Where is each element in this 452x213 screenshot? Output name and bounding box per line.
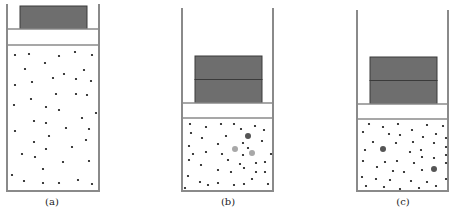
gas-particle	[435, 133, 437, 135]
gas-particle	[14, 130, 16, 132]
gas-particle	[85, 139, 87, 141]
gas-particle	[420, 149, 422, 151]
gas-particle	[34, 156, 36, 158]
gas-particle	[239, 163, 241, 165]
gas-particle	[200, 164, 202, 166]
gas-particle	[410, 180, 412, 182]
gas-particle	[42, 182, 44, 184]
gas-particle	[399, 188, 401, 190]
gas-particle	[189, 123, 191, 125]
gas-particle	[243, 183, 245, 185]
gas-particle	[409, 151, 411, 153]
gas-particle	[233, 184, 235, 186]
gas-particle	[445, 137, 447, 139]
gas-particle	[33, 141, 35, 143]
gas-particle	[240, 128, 242, 130]
gas-particle	[392, 170, 394, 172]
gas-particle	[217, 143, 219, 145]
gas-particle	[247, 147, 249, 149]
piston-diagram-canvas	[0, 0, 452, 213]
gas-particle	[255, 171, 257, 173]
panel-label-c: (c)	[396, 196, 409, 207]
gas-particle	[201, 137, 203, 139]
gas-particle	[11, 174, 13, 176]
gas-particle	[63, 73, 65, 75]
gas-particle	[187, 175, 189, 177]
gas-particle	[233, 123, 235, 125]
gas-particle	[375, 178, 377, 180]
gas-particle	[88, 128, 90, 130]
gas-particle	[13, 104, 15, 106]
gas-particle	[242, 142, 244, 144]
gas-particle	[242, 154, 244, 156]
gas-particle	[426, 124, 428, 126]
gas-particle	[48, 135, 50, 137]
gas-particle	[368, 123, 370, 125]
gas-particle	[445, 154, 447, 156]
highlighted-particle	[431, 166, 437, 172]
gas-particle	[58, 109, 60, 111]
gas-particle	[199, 181, 201, 183]
gas-particle	[270, 153, 272, 155]
gas-particle	[361, 176, 363, 178]
gas-particle	[264, 171, 266, 173]
gas-particle	[88, 160, 90, 162]
gas-particle	[365, 185, 367, 187]
gas-particle	[227, 159, 229, 161]
gas-particle	[33, 120, 35, 122]
weight-block	[195, 80, 262, 104]
gas-particle	[382, 126, 384, 128]
gas-particle	[62, 161, 64, 163]
gas-particle	[426, 181, 428, 183]
gas-particle	[188, 159, 190, 161]
gas-particle	[372, 141, 374, 143]
piston	[357, 104, 448, 119]
gas-particle	[230, 171, 232, 173]
gas-particle	[221, 153, 223, 155]
gas-particle	[388, 133, 390, 135]
gas-particle	[384, 161, 386, 163]
panel-label-a: (a)	[45, 196, 59, 207]
gas-particle	[217, 182, 219, 184]
gas-particle	[442, 125, 444, 127]
gas-particle	[91, 54, 93, 56]
gas-particle	[421, 169, 423, 171]
gas-particle	[31, 81, 33, 83]
gas-particle	[220, 123, 222, 125]
gas-particle	[243, 167, 245, 169]
gas-particle	[433, 157, 435, 159]
gas-particle	[435, 185, 437, 187]
gas-particle	[421, 156, 423, 158]
gas-particle	[190, 132, 192, 134]
gas-particle	[399, 134, 401, 136]
gas-particle	[267, 183, 269, 185]
weight-block	[370, 57, 437, 81]
highlighted-particle	[232, 146, 238, 152]
gas-particle	[65, 127, 67, 129]
gas-particle	[55, 93, 57, 95]
gas-particle	[45, 106, 47, 108]
gas-particle	[418, 187, 420, 189]
gas-particle	[14, 84, 16, 86]
gas-particle	[395, 142, 397, 144]
gas-particle	[255, 162, 257, 164]
gas-particle	[42, 168, 44, 170]
gas-particle	[205, 151, 207, 153]
panel-label-b: (b)	[221, 196, 235, 207]
gas-particle	[91, 183, 93, 185]
gas-particle	[24, 68, 26, 70]
gas-particle	[433, 142, 435, 144]
gas-particle	[396, 160, 398, 162]
gas-particle	[445, 162, 447, 164]
gas-particle	[86, 94, 88, 96]
gas-particle	[217, 169, 219, 171]
gas-particle	[28, 53, 30, 55]
gas-particle	[95, 112, 97, 114]
gas-particle	[52, 77, 54, 79]
gas-particle	[77, 179, 79, 181]
highlighted-particle	[249, 150, 255, 156]
gas-particle	[376, 166, 378, 168]
gas-particle	[362, 131, 364, 133]
gas-particle	[83, 69, 85, 71]
gas-particle	[45, 148, 47, 150]
